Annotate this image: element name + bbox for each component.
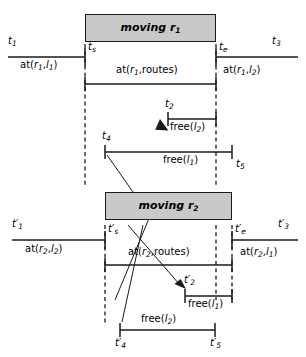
moving-r1-box: moving r1 bbox=[85, 14, 216, 42]
predicate-label-at-r2-l1: at(r2,l1) bbox=[240, 247, 278, 259]
tick-label-t1: t1 bbox=[8, 36, 17, 48]
tick-label-t2-prime: t′2 bbox=[184, 275, 195, 287]
tick-label-t5: t5 bbox=[236, 159, 245, 171]
tick-label-t1-prime: t′1 bbox=[12, 219, 23, 231]
connector-r2-to-t4 bbox=[107, 155, 133, 192]
predicate-label-free-l1-top: free(l1) bbox=[163, 155, 198, 167]
tick-label-t5-prime: t′5 bbox=[210, 338, 221, 350]
tick-label-ts-prime: t′s bbox=[108, 224, 118, 236]
timeline-diagram: moving r1 moving r2 t1 ts te t3 t2 t4 t5… bbox=[0, 0, 306, 357]
tick-label-ts: ts bbox=[88, 42, 96, 54]
predicate-label-free-l1-bot: free(l1) bbox=[188, 299, 223, 311]
tick-label-t3: t3 bbox=[272, 36, 281, 48]
predicate-label-at-r1-l1: at(r1,l1) bbox=[20, 60, 58, 72]
moving-r2-label: moving r2 bbox=[138, 199, 198, 213]
connector-r2-to-t4p bbox=[122, 225, 143, 322]
tick-label-t4-prime: t′4 bbox=[115, 338, 126, 350]
tick-label-te-prime: t′e bbox=[235, 224, 246, 236]
tick-label-t4: t4 bbox=[102, 131, 111, 143]
tick-label-t2: t2 bbox=[165, 99, 174, 111]
predicate-label-at-r1-routes: at(r1,routes) bbox=[116, 65, 178, 77]
predicate-label-at-r2-l2: at(r2,l2) bbox=[25, 244, 63, 256]
predicate-label-free-l2-bot: free(l2) bbox=[141, 314, 176, 326]
moving-r2-box: moving r2 bbox=[105, 192, 232, 220]
diagram-lines-layer bbox=[0, 0, 306, 357]
moving-r1-label: moving r1 bbox=[120, 21, 180, 35]
predicate-label-at-r1-l2: at(r1,l2) bbox=[223, 65, 261, 77]
tick-label-te: te bbox=[219, 42, 228, 54]
arrowhead-to-t2 bbox=[155, 119, 168, 131]
predicate-label-free-l2-top: free(l2) bbox=[170, 122, 205, 134]
predicate-label-at-r2-routes: at(r2,routes) bbox=[128, 247, 190, 259]
tick-label-t3-prime: t′3 bbox=[278, 219, 289, 231]
